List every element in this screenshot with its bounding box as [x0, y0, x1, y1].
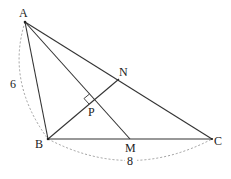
- label-c: C: [214, 134, 222, 148]
- dimension-label-ab: 6: [10, 77, 16, 91]
- side-ca: [25, 22, 212, 139]
- dimension-label-bc: 8: [127, 154, 133, 168]
- right-angle-marker: [84, 94, 90, 104]
- dimension-arc-ab: [19, 22, 48, 139]
- label-m: M: [125, 141, 136, 155]
- geometry-diagram: A B C M N P 6 8: [0, 0, 231, 179]
- label-a: A: [19, 6, 28, 20]
- side-ab: [25, 22, 48, 139]
- segment-am: [25, 22, 130, 139]
- label-n: N: [119, 65, 128, 79]
- label-b: B: [35, 137, 43, 151]
- label-p: P: [88, 105, 95, 119]
